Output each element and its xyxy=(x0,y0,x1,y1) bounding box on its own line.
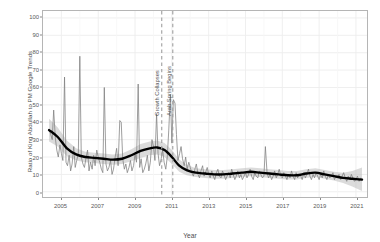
y-tick-label: 70 xyxy=(9,67,39,73)
x-tick-label: 2019 xyxy=(313,203,326,209)
plot-panel: Growth CollapsesArab Spring Begins xyxy=(42,10,368,198)
y-tick-label: 50 xyxy=(9,102,39,108)
x-tick-mark xyxy=(357,198,358,200)
x-tick-mark xyxy=(61,198,62,200)
event-marker-lines xyxy=(43,11,367,197)
x-tick-label: 2017 xyxy=(276,203,289,209)
x-tick-mark xyxy=(98,198,99,200)
x-tick-label: 2007 xyxy=(91,203,104,209)
x-axis-title: Year xyxy=(0,232,380,239)
y-tick-label: 0 xyxy=(9,190,39,196)
x-tick-mark xyxy=(135,198,136,200)
x-tick-label: 2015 xyxy=(239,203,252,209)
x-tick-label: 2011 xyxy=(165,203,178,209)
y-tick-label: 60 xyxy=(9,84,39,90)
event-label-2: Arab Spring Begins xyxy=(166,66,172,116)
x-tick-mark xyxy=(209,198,210,200)
chart-figure: Ratio of King Abdullah to PM Google Tren… xyxy=(0,0,380,242)
y-tick-label: 20 xyxy=(9,155,39,161)
x-tick-mark xyxy=(172,198,173,200)
x-tick-label: 2009 xyxy=(128,203,141,209)
x-tick-mark xyxy=(283,198,284,200)
y-tick-label: 30 xyxy=(9,137,39,143)
event-label-1: Growth Collapses xyxy=(154,70,160,116)
y-tick-label: 80 xyxy=(9,49,39,55)
x-tick-label: 2013 xyxy=(202,203,215,209)
x-tick-label: 2021 xyxy=(350,203,363,209)
y-tick-label: 10 xyxy=(9,172,39,178)
y-tick-label: 40 xyxy=(9,119,39,125)
x-tick-label: 2005 xyxy=(54,203,67,209)
y-tick-label: 90 xyxy=(9,32,39,38)
x-tick-mark xyxy=(320,198,321,200)
x-tick-mark xyxy=(246,198,247,200)
y-tick-label: 100 xyxy=(9,14,39,20)
